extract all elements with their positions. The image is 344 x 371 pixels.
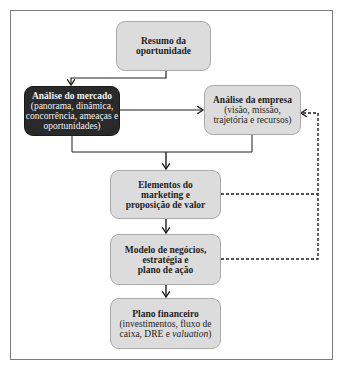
node-title: proposição de valor (126, 200, 206, 210)
node-modelo-negocios: Modelo de negócios, estratégia e plano d… (110, 234, 221, 285)
node-title: Resumo da (141, 36, 186, 46)
node-title: marketing e (141, 190, 190, 200)
node-plano-financeiro: Plano financeiro (investimentos, fluxo d… (110, 298, 221, 349)
node-elementos-marketing: Elementos do marketing e proposição de v… (110, 170, 221, 219)
node-subtitle: trajetória e recursos) (213, 115, 291, 125)
node-title: Plano financeiro (132, 309, 199, 319)
node-title: Análise do mercado (32, 91, 112, 101)
node-analise-mercado: Análise do mercado (panorama, dinâmica, … (24, 86, 120, 136)
node-title: plano de ação (138, 265, 193, 275)
node-subtitle: concorrência, ameaças e (26, 111, 119, 121)
node-subtitle: (panorama, dinâmica, (31, 101, 114, 111)
subtitle-italic: valuation (172, 329, 208, 339)
node-title: Elementos do (138, 180, 193, 190)
node-subtitle: caixa, DRE e valuation) (120, 329, 212, 339)
node-subtitle: oportunidades) (44, 121, 101, 131)
subtitle-text: caixa, DRE e (120, 329, 173, 339)
subtitle-end: ) (208, 329, 211, 339)
node-title: Modelo de negócios, (125, 245, 207, 255)
node-subtitle: (visão, missão, (224, 105, 281, 115)
node-title: Análise da empresa (213, 95, 292, 105)
node-title: oportunidade (136, 46, 191, 56)
node-resumo-oportunidade: Resumo da oportunidade (116, 21, 211, 71)
node-title: estratégia e (142, 255, 188, 265)
node-subtitle: (investimentos, fluxo de (119, 319, 211, 329)
node-analise-empresa: Análise da empresa (visão, missão, traje… (204, 85, 301, 135)
